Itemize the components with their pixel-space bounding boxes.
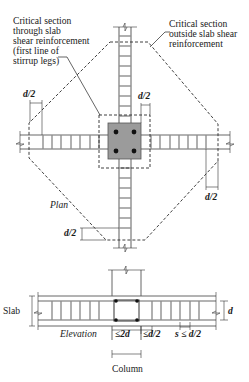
column-plan	[108, 123, 141, 159]
svg-text:d/2: d/2	[23, 88, 35, 99]
svg-text:Column: Column	[112, 363, 143, 374]
punching-shear-diagram: d/2 d/2 d/2 d/2 Plan Critical section	[0, 0, 249, 382]
dim-led2: ≤d/2	[141, 326, 161, 339]
svg-text:s ≤ d/2: s ≤ d/2	[174, 328, 201, 339]
svg-text:≤d/2: ≤d/2	[143, 328, 161, 339]
dim-d: d	[220, 301, 233, 320]
elevation-view: Slab d ≤2d ≤d/2 s ≤ d/2 Elevation	[3, 266, 233, 374]
dim-d2-top-left: d/2	[23, 88, 42, 135]
dim-d2-right: d/2	[205, 149, 218, 202]
svg-text:≤2d: ≤2d	[115, 328, 130, 339]
plan-label: Plan	[49, 199, 68, 210]
leader-inner	[58, 57, 100, 115]
dim-s: s ≤ d/2	[174, 322, 201, 339]
dim-le2d: ≤2d	[112, 328, 141, 339]
svg-text:d/2: d/2	[138, 90, 150, 101]
dim-column: Column	[112, 350, 143, 374]
slab-elevation	[34, 292, 220, 330]
svg-text:d: d	[228, 305, 233, 316]
dim-slab: Slab	[3, 296, 35, 326]
annotation-critical-outside: Critical section outside slab shear rein…	[169, 18, 238, 49]
dim-d2-top-center: d/2	[138, 90, 150, 123]
svg-text:d/2: d/2	[205, 191, 217, 202]
plan-view: d/2 d/2 d/2 d/2 Plan Critical section	[13, 15, 238, 252]
svg-text:reinforcement: reinforcement	[169, 38, 223, 49]
elevation-label: Elevation	[59, 328, 97, 339]
svg-text:stirrup legs): stirrup legs)	[13, 55, 59, 67]
svg-text:d/2: d/2	[64, 227, 76, 238]
svg-text:Slab: Slab	[3, 305, 20, 316]
dim-d2-left-bottom: d/2	[64, 227, 119, 240]
annotation-critical-inside: Critical section through slab shear rein…	[13, 15, 90, 67]
leader-outer	[150, 32, 170, 47]
